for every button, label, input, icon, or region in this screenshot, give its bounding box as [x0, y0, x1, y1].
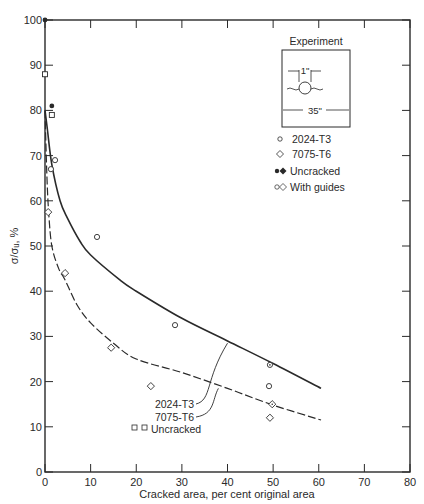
- y-tick-label: 0: [36, 466, 42, 478]
- legend-label: 7075-T6: [292, 148, 331, 160]
- open-diamond-marker: [147, 383, 154, 390]
- y-tick-label: 70: [30, 150, 42, 162]
- legend-label: With guides: [290, 181, 345, 193]
- legend-guided-circle-icon: [275, 185, 279, 189]
- x-axis-label: Cracked area, per cent original area: [139, 488, 315, 500]
- guided-dot: [271, 403, 273, 405]
- open-circle-marker: [48, 167, 53, 172]
- open-diamond-marker: [266, 414, 273, 421]
- x-tick-label: 0: [42, 476, 48, 488]
- width-dimension-label: 35": [308, 105, 322, 116]
- x-tick-label: 30: [176, 476, 188, 488]
- y-tick-label: 20: [30, 376, 42, 388]
- axis-ticks: 010203040506070800102030405060708090100: [24, 14, 416, 488]
- uncracked-open-marker: [43, 72, 48, 77]
- filled-marker: [49, 103, 54, 108]
- y-tick-label: 100: [24, 14, 42, 26]
- x-tick-label: 10: [85, 476, 97, 488]
- uncracked-square-icon: [132, 425, 137, 430]
- y-axis-label: σ/σᵤ, %: [8, 227, 20, 264]
- x-tick-label: 40: [221, 476, 233, 488]
- x-tick-label: 60: [313, 476, 325, 488]
- legend-label: 2024-T3: [292, 133, 331, 145]
- plot-frame: [45, 20, 410, 472]
- x-tick-label: 80: [404, 476, 416, 488]
- arrow-2024-t3: [196, 343, 228, 404]
- guided-dot: [269, 364, 271, 366]
- x-tick-label: 70: [358, 476, 370, 488]
- x-tick-label: 20: [130, 476, 142, 488]
- inset-title: Experiment: [289, 35, 342, 47]
- y-tick-label: 40: [30, 285, 42, 297]
- open-diamond-marker: [108, 344, 115, 351]
- annotation-2024-t3: 2024-T3: [155, 398, 194, 410]
- legend-label: Uncracked: [290, 165, 340, 177]
- hole-icon: [299, 82, 311, 94]
- legend: 2024-T37075-T6UncrackedWith guides: [275, 133, 345, 193]
- y-tick-label: 10: [30, 421, 42, 433]
- legend-diamond-icon: [277, 151, 284, 158]
- y-tick-label: 30: [30, 330, 42, 342]
- y-tick-label: 90: [30, 59, 42, 71]
- chart: 010203040506070800102030405060708090100 …: [0, 0, 424, 504]
- data-points: [43, 18, 276, 422]
- y-tick-label: 50: [30, 240, 42, 252]
- filled-marker: [43, 18, 48, 23]
- open-circle-marker: [266, 384, 271, 389]
- hole-dimension-label: 1": [301, 65, 310, 76]
- uncracked-open-marker: [49, 112, 54, 117]
- plot-border: [45, 20, 410, 472]
- annotation-7075-t6: 7075-T6: [155, 411, 194, 423]
- legend-filled-diamond-icon: [280, 168, 287, 175]
- experiment-inset: Experiment1"35": [282, 35, 350, 127]
- open-circle-marker: [172, 323, 177, 328]
- legend-filled-circle-icon: [275, 169, 279, 173]
- x-tick-label: 50: [267, 476, 279, 488]
- open-circle-marker: [94, 234, 99, 239]
- uncracked-star-icon: [142, 425, 147, 430]
- y-tick-label: 80: [30, 104, 42, 116]
- annotations: 2024-T37075-T6Uncracked: [132, 343, 228, 435]
- annotation-uncracked: Uncracked: [151, 423, 201, 435]
- open-circle-marker: [52, 158, 57, 163]
- legend-guided-diamond-icon: [280, 184, 287, 191]
- legend-circle-icon: [278, 137, 282, 141]
- y-tick-label: 60: [30, 195, 42, 207]
